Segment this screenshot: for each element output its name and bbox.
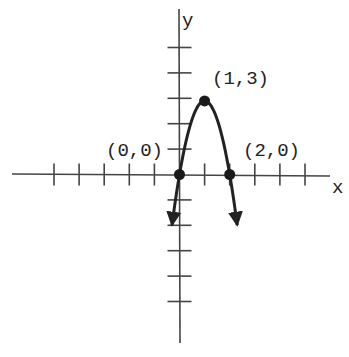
root-point-label: (2,0) [243, 140, 300, 162]
y-axis-label: y [182, 10, 193, 32]
data-point [224, 169, 235, 180]
origin-point-label: (0,0) [106, 140, 163, 162]
parabola-curve [172, 101, 237, 225]
vertex-point-label: (1,3) [212, 68, 269, 90]
x-axis-label: x [332, 177, 343, 199]
parabola-graph: x y (0,0) (1,3) (2,0) [0, 0, 349, 357]
x-axis [12, 174, 330, 176]
data-point [174, 169, 185, 180]
data-point [199, 95, 210, 106]
